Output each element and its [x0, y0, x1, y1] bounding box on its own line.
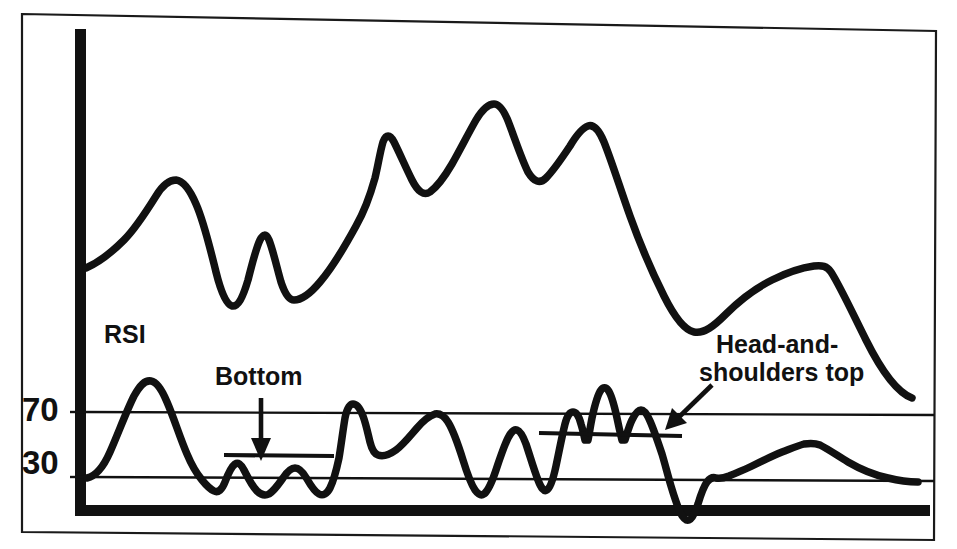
head-and-shoulders-label-line1: Head-and- — [716, 330, 838, 358]
bottom-annotation-label: Bottom — [215, 362, 302, 390]
chart-figure: 70 30 RSI Bottom Head-and- shoulders top — [0, 0, 957, 549]
chart-canvas: 70 30 RSI Bottom Head-and- shoulders top — [0, 0, 957, 549]
y-axis-tick-label-30: 30 — [22, 444, 59, 481]
x-axis-line — [75, 505, 930, 516]
rsi-line-series — [87, 381, 918, 520]
outer-frame-border — [22, 14, 936, 540]
head-and-shoulders-arrow-icon — [665, 385, 712, 430]
bottom-support-line — [224, 455, 334, 456]
bottom-arrow-icon — [251, 398, 271, 461]
head-and-shoulders-neckline — [539, 433, 682, 436]
gridline-70 — [83, 412, 934, 415]
rsi-panel-label: RSI — [104, 320, 146, 348]
y-axis-tick-label-70: 70 — [22, 391, 59, 428]
gridline-30 — [83, 477, 934, 481]
y-axis-line — [75, 29, 86, 516]
head-and-shoulders-label-line2: shoulders top — [699, 358, 864, 386]
